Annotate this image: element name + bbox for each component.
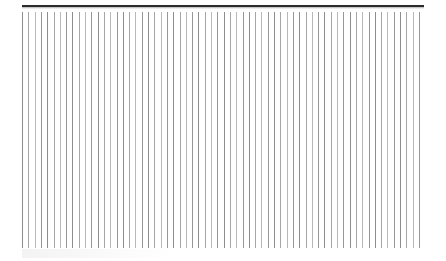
hatch-line (406, 12, 407, 248)
hatch-line (22, 12, 23, 248)
hatch-line (249, 12, 250, 248)
hatch-line (255, 12, 256, 248)
hatch-line (324, 12, 325, 248)
hatch-line (117, 12, 118, 248)
hatch-line (192, 12, 193, 248)
hatch-line (180, 12, 181, 248)
vertical-hatch-pattern (22, 12, 424, 248)
hatch-line (60, 12, 61, 248)
hatch-line (173, 12, 174, 248)
hatch-line (243, 12, 244, 248)
hatch-line (148, 12, 149, 248)
hatch-line (343, 12, 344, 248)
hatch-line (66, 12, 67, 248)
hatch-line (236, 12, 237, 248)
hatch-line (54, 12, 55, 248)
hatch-line (217, 12, 218, 248)
hatch-line (110, 12, 111, 248)
hatch-line (287, 12, 288, 248)
hatch-line (350, 12, 351, 248)
hatch-line (274, 12, 275, 248)
hatch-line (419, 12, 420, 248)
hatch-line (280, 12, 281, 248)
hatch-line (35, 12, 36, 248)
hatch-line (142, 12, 143, 248)
hatch-line (85, 12, 86, 248)
hatch-line (331, 12, 332, 248)
hatch-line (205, 12, 206, 248)
hatch-line (387, 12, 388, 248)
hatch-line (91, 12, 92, 248)
hatch-line (47, 12, 48, 248)
hatch-line (293, 12, 294, 248)
hatch-line (381, 12, 382, 248)
hatch-line (123, 12, 124, 248)
horizontal-rule-halo (22, 7, 424, 9)
hatch-line (356, 12, 357, 248)
image-canvas (0, 0, 446, 261)
hatch-line (104, 12, 105, 248)
hatch-line (400, 12, 401, 248)
hatch-line (154, 12, 155, 248)
hatch-line (198, 12, 199, 248)
hatch-line (186, 12, 187, 248)
hatch-line (312, 12, 313, 248)
hatch-line (72, 12, 73, 248)
hatch-line (98, 12, 99, 248)
hatch-line (41, 12, 42, 248)
hatch-line (261, 12, 262, 248)
hatch-line (394, 12, 395, 248)
hatch-line (362, 12, 363, 248)
hatch-line (79, 12, 80, 248)
hatch-line (369, 12, 370, 248)
hatch-line (28, 12, 29, 248)
hatch-line (337, 12, 338, 248)
hatch-line (299, 12, 300, 248)
compression-ghosting-artifact (22, 249, 172, 258)
hatch-line (318, 12, 319, 248)
hatch-line (211, 12, 212, 248)
hatch-line (230, 12, 231, 248)
hatch-line (413, 12, 414, 248)
hatch-line (135, 12, 136, 248)
hatch-line (375, 12, 376, 248)
hatch-line (161, 12, 162, 248)
hatch-line (268, 12, 269, 248)
hatch-line (306, 12, 307, 248)
hatch-line (167, 12, 168, 248)
hatch-line (129, 12, 130, 248)
hatch-line (224, 12, 225, 248)
